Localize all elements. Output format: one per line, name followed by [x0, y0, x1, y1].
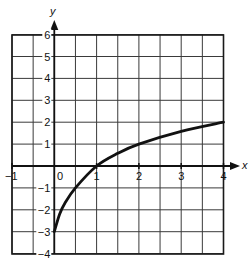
- x-axis: [12, 162, 240, 170]
- y-tick-label: 4: [44, 72, 50, 84]
- x-axis-label: x: [241, 159, 248, 171]
- graph: y x 0 −11234 654321−1−2−3−4: [0, 0, 250, 260]
- x-tick-label: 1: [94, 170, 100, 182]
- y-axis-label: y: [49, 5, 57, 17]
- x-tick-label: 3: [178, 170, 184, 182]
- y-tick-label: 1: [44, 138, 50, 150]
- origin-label: 0: [57, 170, 63, 182]
- y-tick-label: −4: [38, 248, 51, 260]
- x-tick-label: 2: [136, 170, 142, 182]
- y-tick-label: −3: [38, 226, 51, 238]
- y-tick-label: 3: [44, 94, 50, 106]
- y-tick-label: 6: [44, 29, 50, 41]
- x-axis-arrow-icon: [230, 162, 240, 170]
- x-tick-label: −1: [5, 170, 18, 182]
- y-tick-label: −1: [38, 182, 51, 194]
- x-tick-label: 4: [221, 170, 227, 182]
- y-tick-label: −2: [38, 204, 51, 216]
- y-tick-label: 2: [44, 116, 50, 128]
- y-tick-label: 5: [44, 51, 50, 63]
- y-axis-arrow-icon: [50, 20, 58, 30]
